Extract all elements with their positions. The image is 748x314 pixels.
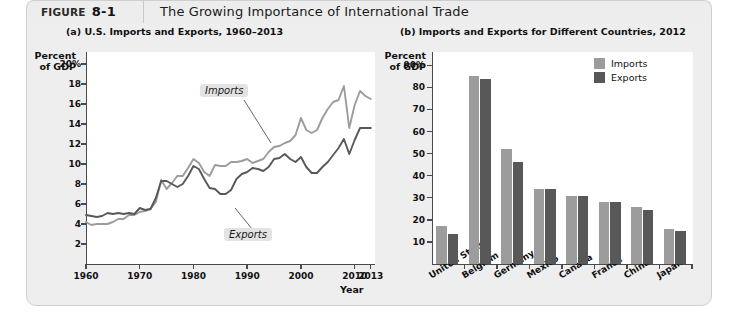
bar-canada-exports (578, 196, 589, 264)
x-tick-mark (85, 264, 86, 269)
y-tick-mark (81, 143, 86, 144)
y-tick-mark (81, 243, 86, 244)
bar-china-imports (631, 207, 642, 264)
y-tick-label: 8 (34, 179, 81, 189)
bar-germany-imports (501, 149, 512, 264)
x-tick-mark (193, 264, 194, 269)
y-tick-mark (81, 63, 86, 64)
y-tick-mark (81, 163, 86, 164)
y-tick-label: 6 (34, 199, 81, 209)
y-tick-label: 90% (380, 60, 425, 70)
bar-belgium-imports (469, 76, 480, 264)
y-tick-label: 30 (380, 193, 425, 203)
bar-united-states-exports (448, 234, 459, 264)
bar-japan-imports (664, 229, 675, 264)
bar-canada-imports (566, 196, 577, 264)
y-tick-label: 2 (34, 239, 81, 249)
figure-number-group: FIGURE 8-1 (27, 4, 143, 19)
panel-a-title: (a) U.S. Imports and Exports, 1960–2013 (66, 26, 283, 37)
x-tick-mark (246, 264, 247, 269)
y-tick-mark (81, 183, 86, 184)
bar-france-exports (610, 202, 621, 264)
x-tick-label: 1990 (229, 271, 265, 281)
exports-annotation: Exports (224, 228, 272, 241)
y-tick-label: 80 (380, 82, 425, 92)
x-tick-mark (300, 264, 301, 269)
figure-header-tab: FIGURE 8-1 The Growing Importance of Int… (26, 0, 712, 22)
y-tick-label: 40 (380, 171, 425, 181)
x-tick-label: 2000 (283, 271, 319, 281)
x-tick-label: 1980 (175, 271, 211, 281)
panel-b: (b) Imports and Exports for Different Co… (378, 22, 712, 296)
x-tick-label: 1960 (68, 271, 104, 281)
figure-root: FIGURE 8-1 The Growing Importance of Int… (0, 0, 748, 314)
y-tick-label: 50 (380, 149, 425, 159)
y-tick-mark (81, 123, 86, 124)
y-tick-label: 4 (34, 219, 81, 229)
y-tick-mark (81, 203, 86, 204)
y-tick-label: 10 (34, 159, 81, 169)
bar-mexico-imports (534, 189, 545, 264)
y-tick-label: 12 (34, 139, 81, 149)
bar-united-states-imports (436, 226, 447, 264)
panel-a-xaxis-name: Year (340, 284, 364, 295)
bar-france-imports (599, 202, 610, 264)
panel-a: (a) U.S. Imports and Exports, 1960–2013P… (28, 22, 388, 296)
y-tick-mark (81, 83, 86, 84)
y-tick-label: 18 (34, 79, 81, 89)
y-tick-label: 16 (34, 99, 81, 109)
y-tick-mark (81, 103, 86, 104)
x-tick-mark (370, 264, 371, 269)
bar-japan-exports (675, 231, 686, 264)
bar-belgium-exports (480, 79, 491, 265)
bar-germany-exports (513, 162, 524, 264)
imports-annotation: Imports (200, 84, 248, 97)
x-tick-mark (139, 264, 140, 269)
bar-mexico-exports (545, 189, 556, 264)
figure-title: The Growing Importance of International … (144, 4, 469, 19)
figure-word: FIGURE (41, 6, 86, 18)
y-tick-label: 20 (380, 215, 425, 225)
x-tick-mark (691, 264, 692, 269)
y-tick-label: 10 (380, 237, 425, 247)
y-tick-label: 70 (380, 104, 425, 114)
panel-b-bar-layer (432, 52, 692, 264)
y-tick-mark (81, 223, 86, 224)
x-tick-label: 1970 (122, 271, 158, 281)
y-tick-label: 20% (34, 59, 81, 69)
y-tick-label: 14 (34, 119, 81, 129)
x-tick-mark (354, 264, 355, 269)
figure-number: 8-1 (92, 4, 116, 19)
y-tick-label: 60 (380, 127, 425, 137)
bar-china-exports (643, 210, 654, 264)
panel-b-title: (b) Imports and Exports for Different Co… (400, 26, 686, 37)
